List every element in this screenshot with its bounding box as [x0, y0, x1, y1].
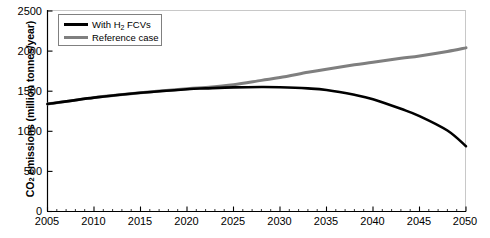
legend-item-with-h2-fcvs: With H2 FCVs [64, 18, 151, 31]
chart-legend: With H2 FCVs Reference case [58, 14, 162, 46]
legend-item-reference-case: Reference case [64, 31, 159, 44]
series-line-with-h2-fcvs [48, 87, 467, 146]
legend-label-prefix-1: Reference case [92, 32, 159, 43]
legend-label-prefix-0: With H [92, 19, 121, 30]
x-axis-major-ticks [48, 207, 467, 212]
legend-label-sub-0: 2 [121, 24, 125, 31]
co2-emissions-line-chart: CO2 emissions (million tonnes/year) 2500… [0, 0, 490, 238]
legend-label-suffix-0: FCVs [124, 19, 150, 30]
legend-swatch-reference-case [64, 36, 88, 39]
legend-swatch-with-h2-fcvs [64, 23, 88, 26]
legend-label-with-h2-fcvs: With H2 FCVs [92, 19, 151, 30]
legend-label-reference-case: Reference case [92, 32, 159, 43]
y-axis-major-ticks [48, 11, 53, 212]
